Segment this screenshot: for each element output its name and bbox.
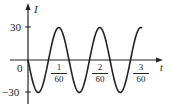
y-axis-arrow-icon: [26, 3, 31, 10]
numerator: 3: [133, 63, 149, 74]
denominator: 60: [133, 74, 149, 84]
x-axis-label: t: [160, 63, 163, 73]
y-tick-label-30: 30: [10, 22, 21, 33]
x-tick-label-1-60: 1 60: [51, 63, 67, 84]
x-tick-label-3-60: 3 60: [133, 63, 149, 84]
numerator: 1: [51, 63, 67, 74]
y-tick-label-neg30: −30: [2, 87, 19, 98]
chart-canvas: [0, 0, 173, 107]
y-axis-label: I: [34, 4, 38, 15]
numerator: 2: [92, 63, 108, 74]
denominator: 60: [51, 74, 67, 84]
denominator: 60: [92, 74, 108, 84]
x-tick-label-2-60: 2 60: [92, 63, 108, 84]
origin-label: 0: [17, 63, 23, 74]
